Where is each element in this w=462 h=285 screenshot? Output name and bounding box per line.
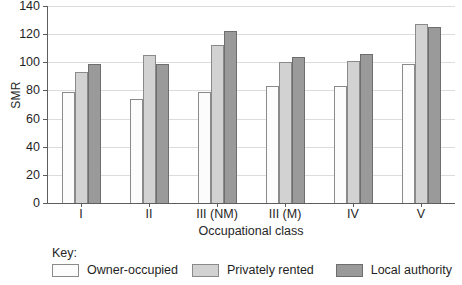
bar-group (115, 6, 183, 203)
legend-item: Privately rented (192, 263, 336, 277)
legend-label: Local authority (371, 263, 452, 277)
bar (198, 92, 211, 203)
bar (334, 86, 347, 203)
bar-group (183, 6, 251, 203)
x-axis-tick-label: I (79, 207, 82, 221)
bar (279, 62, 292, 203)
legend-item: Owner-occupied (52, 263, 192, 277)
bar (224, 31, 237, 203)
y-axis-tick-label: 20 (26, 168, 40, 182)
y-axis-tick-label: 80 (26, 83, 40, 97)
legend-entries: Owner-occupiedPrivately rentedLocal auth… (52, 263, 452, 277)
x-axis-tick-label: II (146, 207, 153, 221)
x-axis-tick-label: IV (347, 207, 359, 221)
plot-area: 020406080100120140 (47, 6, 455, 203)
chart-figure: SMR 020406080100120140 Occupational clas… (0, 0, 462, 285)
bar (211, 45, 224, 203)
y-axis-tick-label: 120 (19, 27, 40, 41)
bar-group (47, 6, 115, 203)
bar (130, 99, 143, 203)
legend-swatch (336, 264, 363, 277)
y-axis-tick-label: 100 (19, 55, 40, 69)
bar (88, 64, 101, 203)
bar (347, 61, 360, 203)
legend-label: Privately rented (227, 263, 314, 277)
bar (143, 55, 156, 203)
x-axis-tick-label: III (M) (269, 207, 302, 221)
bar (402, 64, 415, 203)
bar (415, 24, 428, 203)
x-axis-line (47, 203, 455, 204)
y-axis-title: SMR (9, 65, 23, 125)
bar-group (387, 6, 455, 203)
chart-legend: Key: Owner-occupiedPrivately rentedLocal… (52, 246, 452, 277)
bar (266, 86, 279, 203)
y-axis-tick-label: 60 (26, 112, 40, 126)
bar (360, 54, 373, 203)
y-axis-tick-label: 0 (33, 196, 40, 210)
bar (156, 64, 169, 203)
x-axis-tick-label: V (417, 207, 425, 221)
legend-swatch (192, 264, 219, 277)
bar (428, 27, 441, 203)
legend-swatch (52, 264, 79, 277)
legend-item: Local authority (336, 263, 452, 277)
y-axis-tick-label: 40 (26, 140, 40, 154)
bar-group (251, 6, 319, 203)
bar-group (319, 6, 387, 203)
y-axis-tick (43, 203, 47, 204)
legend-title: Key: (52, 246, 452, 260)
bar (62, 92, 75, 203)
x-axis-title: Occupational class (47, 224, 455, 238)
legend-label: Owner-occupied (87, 263, 178, 277)
bar (75, 72, 88, 203)
bar (292, 57, 305, 203)
x-axis-tick-label: III (NM) (196, 207, 238, 221)
y-axis-tick-label: 140 (19, 0, 40, 13)
